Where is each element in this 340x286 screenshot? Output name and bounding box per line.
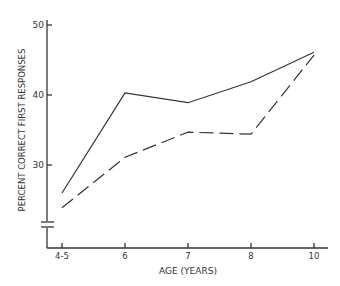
y-axis <box>41 20 54 248</box>
y-tick-labels: 50 40 30 <box>33 20 45 170</box>
x-tick-label: 8 <box>248 251 253 261</box>
series-line-solid <box>62 52 314 193</box>
x-tick-label: 10 <box>309 251 320 261</box>
x-tick-label: 7 <box>185 251 190 261</box>
y-axis-label: PERCENT CORRECT FIRST RESPONSES <box>17 49 27 212</box>
x-tick-labels: 4-5 6 7 8 10 <box>55 251 319 261</box>
x-axis <box>47 243 328 248</box>
x-tick-label: 6 <box>122 251 127 261</box>
line-chart: 50 40 30 PERCENT CORRECT FIRST RESPONSES… <box>0 0 340 286</box>
x-tick-label: 4-5 <box>55 251 69 261</box>
y-tick-label: 50 <box>33 20 45 30</box>
x-axis-label: AGE (YEARS) <box>159 266 217 276</box>
series-line-dashed <box>62 55 314 208</box>
y-tick-label: 30 <box>33 160 45 170</box>
y-tick-label: 40 <box>33 90 45 100</box>
